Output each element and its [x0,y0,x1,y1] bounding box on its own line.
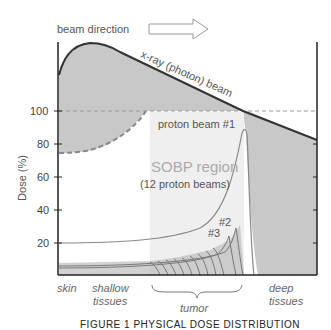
y-tick-60: 60 [37,171,49,183]
beam-2-label: #2 [219,216,231,228]
sobp-label: SOBP region [151,158,238,175]
y-tick-80: 80 [37,138,49,150]
y-tick-40: 40 [37,204,49,216]
y-axis-label: Dose (%) [16,155,28,201]
beam-3-label: #3 [208,227,220,239]
region-skin: skin [57,282,77,294]
region-deep-1: deep [269,282,293,294]
region-tumor: tumor [180,302,209,314]
y-tick-20: 20 [37,237,49,249]
figure-caption: FIGURE 1 PHYSICAL DOSE DISTRIBUTION [80,319,300,330]
sobp-sublabel: (12 proton beams) [140,178,230,190]
proton-beam-1-label: proton beam #1 [158,118,235,130]
y-tick-100: 100 [30,105,48,117]
tumor-brace [152,285,242,298]
region-deep-2: tissues [269,295,304,307]
beam-direction-arrow-icon [149,19,208,39]
region-shallow-1: shallow [92,282,130,294]
beam-direction-title: beam direction [57,23,129,35]
region-shallow-2: tissues [93,295,128,307]
